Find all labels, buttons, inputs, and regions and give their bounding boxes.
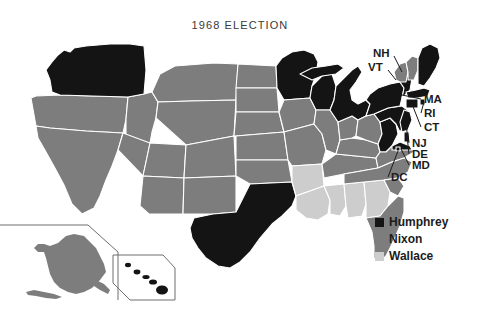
alaska-aleutians[interactable] [26, 290, 62, 299]
hawaii-kauai[interactable] [125, 263, 131, 267]
legend-label-nixon: Nixon [389, 233, 422, 245]
state-ME[interactable] [418, 44, 440, 86]
state-KS[interactable] [236, 132, 288, 160]
legend-label-humphrey: Humphrey [389, 216, 448, 228]
inset-alaska [26, 234, 110, 299]
state-NH[interactable] [406, 56, 418, 80]
hawaii-molokai[interactable] [142, 275, 149, 279]
hawaii-maui[interactable] [149, 279, 157, 284]
state-CT[interactable] [406, 99, 418, 108]
us-election-map [0, 0, 480, 313]
callout-label-NH: NH [373, 48, 390, 60]
state-CA[interactable] [36, 126, 123, 214]
hawaii-bigisland[interactable] [156, 285, 168, 294]
state-AL[interactable] [344, 182, 366, 218]
callout-label-VT: VT [368, 62, 383, 74]
legend-swatch-wallace [375, 252, 384, 261]
inset-hawaii [125, 263, 168, 295]
state-WA[interactable] [46, 44, 146, 97]
election-map-page: 1968 ELECTION [0, 0, 480, 313]
callout-label-MD: MD [412, 160, 430, 172]
callout-label-MA: MA [424, 94, 442, 106]
state-DC[interactable] [396, 147, 400, 151]
state-VT[interactable] [394, 62, 408, 82]
legend-item-humphrey[interactable]: Humphrey [375, 214, 448, 230]
hawaii-oahu[interactable] [134, 270, 141, 275]
state-UT[interactable] [143, 143, 186, 178]
state-SD[interactable] [236, 88, 279, 112]
callout-label-CT: CT [424, 122, 439, 134]
state-OK[interactable] [236, 160, 292, 184]
state-AZ[interactable] [140, 176, 184, 214]
legend-item-nixon[interactable]: Nixon [375, 231, 448, 247]
state-MT[interactable] [152, 63, 238, 102]
alaska-panhandle[interactable] [94, 280, 110, 294]
callout-label-RI: RI [424, 108, 436, 120]
legend-swatch-humphrey [375, 218, 384, 227]
callout-label-DC: DC [391, 172, 408, 184]
state-NM[interactable] [183, 176, 236, 214]
map-legend: Humphrey Nixon Wallace [375, 214, 448, 265]
legend-swatch-nixon [375, 235, 384, 244]
state-ND[interactable] [236, 64, 277, 88]
legend-item-wallace[interactable]: Wallace [375, 248, 448, 264]
state-MD[interactable] [392, 142, 412, 150]
legend-label-wallace: Wallace [389, 250, 433, 262]
